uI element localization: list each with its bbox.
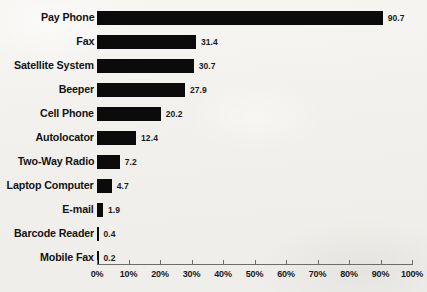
x-axis-tick (412, 260, 413, 265)
bar (97, 59, 194, 73)
category-label: Barcode Reader (14, 225, 94, 242)
bar-value-label: 12.4 (141, 132, 158, 145)
chart-row: Satellite System30.7 (0, 57, 427, 81)
bar-value-label: 0.4 (104, 228, 116, 241)
bar-value-label: 31.4 (201, 36, 218, 49)
bar-track: 12.4 (97, 131, 412, 145)
bar-track: 90.7 (97, 11, 412, 25)
bar-value-label: 27.9 (190, 84, 207, 97)
x-axis-tick-label: 70% (309, 269, 326, 279)
bar-track: 27.9 (97, 83, 412, 97)
bar-track: 4.7 (97, 179, 412, 193)
category-label: Beeper (59, 81, 94, 98)
bar (97, 227, 99, 241)
category-label: E-mail (63, 201, 94, 218)
bar-value-label: 90.7 (388, 12, 405, 25)
bar-track: 7.2 (97, 155, 412, 169)
x-axis-tick-label: 30% (183, 269, 200, 279)
x-axis-tick-label: 80% (340, 269, 357, 279)
chart-rows: Pay Phone90.7Fax31.4Satellite System30.7… (0, 9, 427, 273)
x-axis-tick-label: 50% (246, 269, 263, 279)
x-axis-tick (129, 260, 130, 265)
chart-row: Laptop Computer4.7 (0, 177, 427, 201)
bar-track: 30.7 (97, 59, 412, 73)
bar-value-label: 4.7 (117, 180, 129, 193)
x-axis-tick-label: 10% (120, 269, 137, 279)
category-label: Pay Phone (41, 9, 94, 26)
bar-value-label: 7.2 (125, 156, 137, 169)
x-axis-tick (255, 260, 256, 265)
category-label: Autolocator (36, 129, 94, 146)
bar-value-label: 1.9 (108, 204, 120, 217)
x-axis-tick (223, 260, 224, 265)
bar-track: 1.9 (97, 203, 412, 217)
x-axis-tick-label: 90% (372, 269, 389, 279)
chart-row: Autolocator12.4 (0, 129, 427, 153)
x-axis-tick (381, 260, 382, 265)
bar (97, 155, 120, 169)
chart-row: Two-Way Radio7.2 (0, 153, 427, 177)
x-axis-tick (97, 260, 98, 265)
category-label: Cell Phone (40, 105, 94, 122)
bar (97, 83, 185, 97)
x-axis-tick-label: 20% (151, 269, 168, 279)
category-label: Fax (76, 33, 94, 50)
x-axis-tick (160, 260, 161, 265)
bar (97, 11, 383, 25)
bar (97, 179, 112, 193)
x-axis-tick-label: 100% (401, 269, 423, 279)
chart-row: Pay Phone90.7 (0, 9, 427, 33)
category-label: Satellite System (14, 57, 94, 74)
bar-track: 31.4 (97, 35, 412, 49)
bar (97, 107, 161, 121)
bar (97, 203, 103, 217)
category-label: Laptop Computer (7, 177, 94, 194)
bar-track: 20.2 (97, 107, 412, 121)
bar-value-label: 20.2 (166, 108, 183, 121)
x-axis-tick-label: 60% (277, 269, 294, 279)
bar (97, 131, 136, 145)
chart-row: Fax31.4 (0, 33, 427, 57)
bar-value-label: 30.7 (199, 60, 216, 73)
bar-track: 0.4 (97, 227, 412, 241)
chart-row: Beeper27.9 (0, 81, 427, 105)
category-label: Mobile Fax (40, 249, 94, 266)
chart-row: Barcode Reader0.4 (0, 225, 427, 249)
x-axis-tick (349, 260, 350, 265)
chart-row: E-mail1.9 (0, 201, 427, 225)
chart-row: Cell Phone20.2 (0, 105, 427, 129)
x-axis-tick (192, 260, 193, 265)
x-axis-tick (318, 260, 319, 265)
x-axis-tick (286, 260, 287, 265)
x-axis-tick-label: 40% (214, 269, 231, 279)
bar-chart: Pay Phone90.7Fax31.4Satellite System30.7… (0, 0, 427, 292)
bar (97, 35, 196, 49)
x-axis-tick-label: 0% (91, 269, 104, 279)
category-label: Two-Way Radio (17, 153, 94, 170)
